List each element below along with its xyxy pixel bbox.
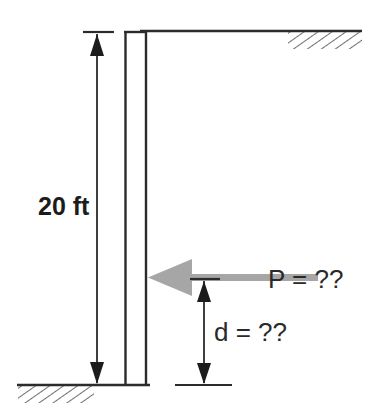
height-dimension-line: 20 ft <box>38 32 114 384</box>
height-dim-arrow-up <box>90 34 104 56</box>
distance-dim-arrow-down <box>197 363 211 384</box>
ground-hatching <box>18 386 94 403</box>
top-support-hatching <box>288 32 362 49</box>
vertical-wall <box>124 31 147 385</box>
height-dimension-label: 20 ft <box>38 192 90 220</box>
applied-load-arrow: P = ?? <box>148 259 343 296</box>
height-dim-arrow-down <box>90 362 104 384</box>
distance-dimension-label: d = ?? <box>214 317 287 347</box>
distance-dim-arrow-up <box>197 281 211 302</box>
engineering-diagram: 20 ft P = ?? d = ?? <box>0 0 368 417</box>
top-support-surface <box>140 31 362 49</box>
ground-surface <box>17 385 150 403</box>
applied-load-label: P = ?? <box>268 264 343 294</box>
load-arrow-head <box>148 259 192 296</box>
figure-canvas: 20 ft P = ?? d = ?? <box>0 0 368 417</box>
